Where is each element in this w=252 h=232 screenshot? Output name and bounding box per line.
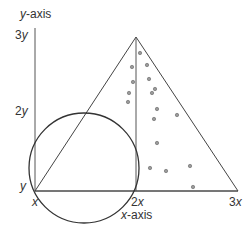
y-axis-title: y-axis <box>19 7 51 21</box>
x-tick-3x: 3x <box>229 195 243 209</box>
dot <box>131 80 134 83</box>
dot <box>175 113 178 116</box>
dot <box>164 169 167 172</box>
y-tick-3y: 3y <box>15 28 29 42</box>
y-tick-y: y <box>19 179 27 193</box>
dot <box>153 87 156 90</box>
dot <box>188 164 191 167</box>
dot <box>127 91 130 94</box>
dot <box>148 166 151 169</box>
circle <box>29 113 139 223</box>
dot <box>191 185 194 188</box>
scatter-dots <box>126 51 194 188</box>
dot <box>126 100 129 103</box>
x-tick-x: x <box>31 195 39 209</box>
dot <box>150 91 153 94</box>
dot <box>155 107 158 110</box>
dot <box>147 77 150 80</box>
dot <box>138 51 141 54</box>
diagram-canvas: y-axis 3y 2y y x 2x 3x x-axis <box>0 0 252 232</box>
dot <box>155 141 158 144</box>
dot <box>130 65 133 68</box>
y-tick-2y: 2y <box>15 104 29 118</box>
dot <box>152 117 155 120</box>
x-tick-2x: 2x <box>131 195 145 209</box>
dot <box>145 63 148 66</box>
x-axis-title: x-axis <box>120 208 152 222</box>
